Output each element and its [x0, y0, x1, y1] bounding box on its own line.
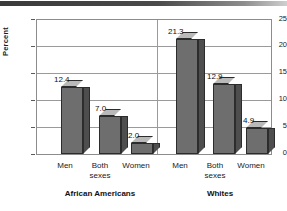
bar-wh-men[interactable] [176, 39, 198, 154]
y-tick-mark-5 [31, 127, 35, 128]
bar-front [246, 128, 268, 154]
bar-side [235, 84, 242, 154]
header-rule [0, 1, 287, 6]
bar-wh-women[interactable] [246, 128, 268, 154]
bar-value-wh-women: 4.9 [243, 116, 254, 125]
y-axis-title: Percent [1, 27, 10, 56]
category-label-wh-both: Both sexes [196, 161, 234, 180]
group-label-african-americans: African Americans [40, 189, 160, 198]
bar-value-aa-men: 12.4 [54, 75, 70, 84]
bar-front [176, 39, 198, 154]
bar-value-aa-women: 2.0 [128, 131, 139, 140]
category-label-aa-men: Men [47, 161, 83, 171]
plot-area [36, 19, 272, 155]
category-label-aa-women: Women [115, 161, 157, 171]
gridline-15 [37, 73, 271, 74]
bar-aa-women[interactable] [131, 143, 153, 154]
bar-chart-figure: Percent 25 20 15 10 5 0 [0, 0, 287, 211]
bar-value-aa-both: 7.0 [95, 104, 106, 113]
bar-front [213, 84, 235, 154]
y-tick-mark-15 [31, 73, 35, 74]
bar-side [83, 87, 90, 154]
y-tick-mark-0 [31, 154, 35, 155]
bar-side [198, 39, 205, 154]
bar-aa-both[interactable] [99, 116, 121, 154]
gridline-20 [37, 46, 271, 47]
bar-wh-both[interactable] [213, 84, 235, 154]
bar-side [121, 116, 128, 154]
bar-value-wh-men: 21.3 [168, 27, 184, 36]
y-tick-mark-20 [31, 46, 35, 47]
bar-front [131, 143, 153, 154]
bar-value-wh-both: 12.9 [207, 72, 223, 81]
category-label-aa-both: Both sexes [81, 161, 119, 180]
bar-aa-men[interactable] [61, 87, 83, 154]
group-label-whites: Whites [175, 189, 265, 198]
category-label-wh-women: Women [230, 161, 272, 171]
bar-front [99, 116, 121, 154]
y-tick-mark-10 [31, 100, 35, 101]
group-divider [157, 20, 158, 154]
y-tick-mark-25 [31, 19, 35, 20]
category-label-wh-men: Men [162, 161, 198, 171]
bar-front [61, 87, 83, 154]
